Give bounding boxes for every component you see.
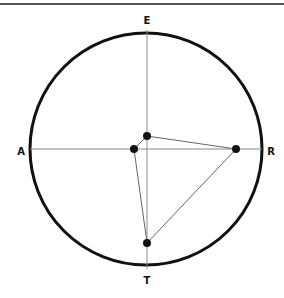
point-1 [143, 132, 151, 140]
label-top: E [144, 15, 151, 26]
label-bottom: T [144, 275, 151, 286]
polygon-diagram: E A R T [0, 0, 284, 298]
quadrilateral [134, 136, 236, 243]
label-left: A [17, 146, 25, 157]
point-2 [130, 145, 138, 153]
point-4 [143, 239, 151, 247]
point-3 [232, 145, 240, 153]
label-right: R [267, 146, 275, 157]
